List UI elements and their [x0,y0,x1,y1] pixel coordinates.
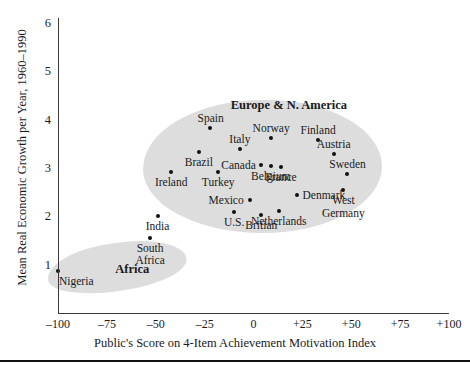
y-tick-label: 3 [29,162,51,174]
y-tick-label: 6 [29,17,51,29]
data-point-label: U.S. [224,216,244,228]
x-axis-line [58,313,449,314]
data-point [277,209,281,213]
data-point [295,193,299,197]
data-point-label: Nigeria [59,275,93,287]
data-point-label: Ireland [155,176,188,188]
y-tick-label: 4 [29,114,51,126]
data-point-label: Britian [245,219,277,231]
data-point [148,236,152,240]
data-point-label: Norway [253,122,290,134]
scatter-chart: Europe & N. AmericaAfrica SpainItalyNorw… [0,0,470,365]
y-tick-label: 5 [29,65,51,77]
data-point [156,214,160,218]
x-tick-label: –25 [182,318,228,331]
y-axis-title: Mean Real Economic Growth per Year, 1960… [15,8,30,308]
y-tick-label: 2 [29,210,51,222]
data-point-label: Mexico [209,194,244,206]
x-tick-label: 0 [231,318,277,331]
data-point-label: Turkey [202,176,235,188]
data-point [238,147,242,151]
data-point [279,165,283,169]
data-point [269,164,273,168]
data-point-label: Sweden [329,158,365,170]
data-point [197,150,201,154]
data-point-label: India [146,220,170,232]
y-axis-line [58,18,59,313]
x-tick-label: +100 [426,318,470,331]
data-point-label: Italy [229,133,250,145]
data-point-label: Austria [317,138,351,150]
data-point-label: Denmark [303,189,346,201]
data-point-label: Spain [197,112,223,124]
bottom-rule [0,360,470,362]
data-point-label: France [265,171,296,183]
x-tick-label: +25 [279,318,325,331]
x-axis-title: Public's Score on 4-Item Achievement Mot… [0,336,470,351]
data-point-label: Finland [301,124,336,136]
x-tick-label: –100 [35,318,81,331]
cluster-label: Europe & N. America [231,98,347,113]
data-point-label: SouthAfrica [135,242,164,267]
x-tick-label: –50 [133,318,179,331]
y-tick-label: 1 [29,259,51,271]
x-tick-label: –75 [84,318,130,331]
data-point [332,152,336,156]
data-point [259,163,263,167]
x-tick-label: +75 [377,318,423,331]
data-point-label: Brazil [185,156,213,168]
plot-area: Europe & N. AmericaAfrica SpainItalyNorw… [0,0,470,365]
x-tick-label: +50 [328,318,374,331]
